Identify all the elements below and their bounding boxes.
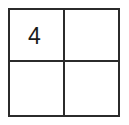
grid-cell-r1c0[interactable] — [10, 62, 65, 115]
grid-cell-value: 4 — [28, 25, 41, 48]
grid-cell-r1c1[interactable] — [65, 62, 118, 115]
two-by-two-grid: 4 — [8, 8, 120, 117]
grid-cell-r0c1[interactable] — [65, 10, 118, 62]
grid-cell-r0c0[interactable]: 4 — [10, 10, 65, 62]
